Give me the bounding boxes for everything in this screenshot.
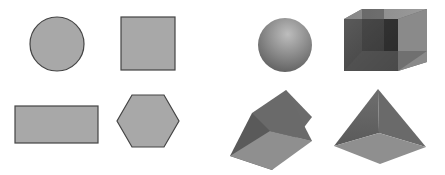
panel-3d-solids [230, 9, 427, 170]
square-pyramid-solid [334, 89, 426, 164]
rectangle-shape [15, 106, 98, 143]
triangular-prism-solid [230, 90, 312, 170]
hexagon-shape [117, 95, 179, 147]
sphere-solid [258, 18, 312, 72]
shapes-figure [0, 0, 445, 175]
circle-shape [30, 17, 84, 71]
square-shape [121, 17, 175, 70]
rectangular-prism-solid [344, 9, 427, 71]
panel-2d-shapes [15, 17, 179, 147]
